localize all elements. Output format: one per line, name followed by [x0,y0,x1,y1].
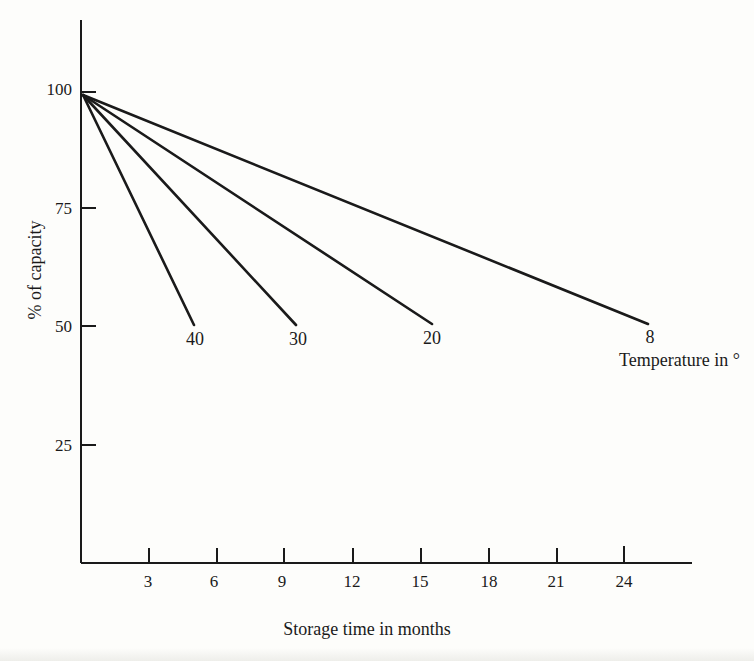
y-tick-label-50: 50 [55,317,72,336]
x-tick-label-18: 18 [481,572,498,591]
series-label-20: 20 [423,328,441,348]
temperature-annotation: Temperature in ° [619,350,740,370]
axes [81,20,692,563]
line-20 [83,95,432,324]
x-tick-label-15: 15 [412,572,429,591]
x-ticks: 3 6 9 12 15 18 21 24 [144,546,633,591]
y-axis-title: % of capacity [25,221,45,320]
series-label-30: 30 [289,329,307,349]
series-lines [83,95,648,325]
x-tick-label-3: 3 [144,572,153,591]
line-40 [83,95,194,325]
series-label-40: 40 [186,329,204,349]
line-30 [83,95,296,325]
x-tick-label-6: 6 [210,572,219,591]
y-tick-label-75: 75 [55,199,72,218]
x-tick-label-21: 21 [548,572,565,591]
series-labels: 40 30 20 8 Temperature in ° [186,327,740,370]
x-tick-label-9: 9 [278,572,287,591]
chart: 100 75 50 25 3 6 9 12 15 18 21 24 40 30 … [0,0,754,661]
y-tick-label-100: 100 [47,80,73,99]
series-label-8: 8 [646,327,655,347]
y-ticks: 100 75 50 25 [47,80,97,455]
page-bottom-edge [0,648,754,661]
x-tick-label-24: 24 [616,572,634,591]
line-8 [83,95,648,324]
x-axis-title: Storage time in months [283,619,450,639]
y-tick-label-25: 25 [55,436,72,455]
x-tick-label-12: 12 [344,572,361,591]
